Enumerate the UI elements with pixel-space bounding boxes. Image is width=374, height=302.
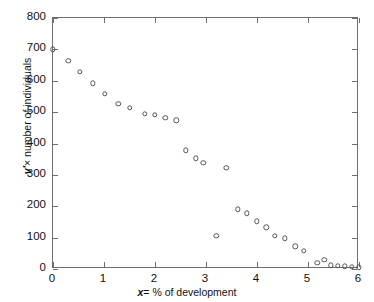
plot-area <box>52 17 358 268</box>
x-tick <box>53 262 54 267</box>
y-axis-title-text: × number of individuals <box>21 58 33 166</box>
y-tick-label: 0 <box>8 261 46 273</box>
x-axis-title-text: = % of development <box>143 286 236 298</box>
data-point <box>293 244 298 249</box>
data-point <box>224 165 229 170</box>
x-tick-top <box>155 18 156 23</box>
data-point <box>201 160 206 165</box>
y-tick-right <box>352 238 357 239</box>
y-tick <box>53 112 58 113</box>
data-point <box>282 236 287 241</box>
x-tick-top <box>308 18 309 23</box>
x-tick <box>257 262 258 267</box>
y-tick-right <box>352 206 357 207</box>
data-point <box>235 207 240 212</box>
data-point <box>356 265 361 270</box>
data-point <box>342 264 347 269</box>
data-point <box>50 47 55 52</box>
x-tick-top <box>206 18 207 23</box>
data-point <box>335 263 340 268</box>
y-tick-label: 200 <box>8 198 46 210</box>
y-axis-title: v′× number of individuals <box>21 36 33 196</box>
data-point <box>254 219 259 224</box>
x-tick-label: 5 <box>292 272 322 284</box>
x-tick-label: 1 <box>88 272 118 284</box>
y-tick-right <box>352 144 357 145</box>
data-point <box>142 111 147 116</box>
y-tick <box>53 269 58 270</box>
y-tick <box>53 238 58 239</box>
data-point <box>174 118 179 123</box>
data-point <box>90 81 95 86</box>
data-point <box>244 210 249 215</box>
x-tick-label: 6 <box>343 272 373 284</box>
data-point <box>193 156 198 161</box>
y-tick <box>53 18 58 19</box>
y-axis-title-variable: v′ <box>21 166 33 174</box>
data-point <box>102 91 107 96</box>
x-tick <box>155 262 156 267</box>
y-tick <box>53 144 58 145</box>
data-point <box>127 105 132 110</box>
chart-figure: 0123456 0100200300400500600700800 x= % o… <box>0 0 374 302</box>
y-tick-label: 100 <box>8 230 46 242</box>
data-point <box>314 260 319 265</box>
x-tick <box>104 262 105 267</box>
x-tick-label: 4 <box>241 272 271 284</box>
y-tick <box>53 81 58 82</box>
data-point <box>152 112 157 117</box>
x-tick-top <box>104 18 105 23</box>
x-tick-top <box>359 18 360 23</box>
data-point <box>263 225 268 230</box>
data-point <box>328 263 333 268</box>
y-tick-right <box>352 112 357 113</box>
data-point <box>116 101 121 106</box>
data-point <box>213 233 218 238</box>
y-tick-right <box>352 81 357 82</box>
y-tick-right <box>352 18 357 19</box>
y-tick <box>53 175 58 176</box>
data-point <box>162 115 167 120</box>
x-tick-label: 2 <box>139 272 169 284</box>
data-point <box>66 58 71 63</box>
data-point <box>272 233 277 238</box>
y-tick-right <box>352 175 357 176</box>
y-tick-label: 800 <box>8 10 46 22</box>
data-point <box>77 69 82 74</box>
x-tick-top <box>257 18 258 23</box>
data-point <box>301 248 306 253</box>
data-point <box>322 257 327 262</box>
x-tick-label: 0 <box>37 272 67 284</box>
y-tick-right <box>352 49 357 50</box>
x-tick <box>206 262 207 267</box>
x-axis-title: x= % of development <box>0 286 374 298</box>
x-tick <box>308 262 309 267</box>
data-point <box>183 148 188 153</box>
x-tick-label: 3 <box>190 272 220 284</box>
y-tick <box>53 206 58 207</box>
